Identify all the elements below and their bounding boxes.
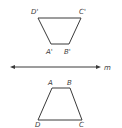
label-c-prime: C' <box>79 8 86 16</box>
label-a-prime: A' <box>45 48 53 56</box>
label-a: A <box>47 79 53 87</box>
label-d-prime: D' <box>31 8 38 16</box>
label-b: B <box>67 79 72 87</box>
arrow-right-icon <box>96 65 101 69</box>
label-line-m: m <box>104 64 111 72</box>
arrow-left-icon <box>10 65 15 69</box>
label-c: C <box>79 121 84 128</box>
image-trapezoid <box>38 18 81 44</box>
reflection-diagram: D' C' A' B' m A B D C <box>0 0 122 128</box>
preimage-trapezoid <box>38 88 82 120</box>
reflection-line-m <box>10 65 101 69</box>
label-d: D <box>35 121 41 128</box>
label-b-prime: B' <box>64 48 71 56</box>
